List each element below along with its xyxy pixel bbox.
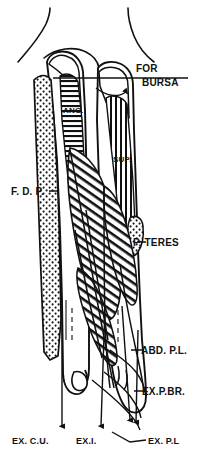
label-fdp: F. D. P. <box>11 186 44 197</box>
label-anconeus: ANC. <box>63 106 83 115</box>
anatomy-figure: FOR BURSA ANC. SUP. F. D. P. P. TERES AB… <box>0 0 205 452</box>
label-supinator: SUP. <box>113 155 131 164</box>
label-extensor-pollicis-brevis: EX.P.BR. <box>142 386 185 397</box>
label-for-bursa-line1: FOR <box>136 63 158 74</box>
label-extensor-pollicis-longus: EX. P.L <box>148 436 180 446</box>
label-abductor-pollicis-longus: ABD. P.L. <box>141 345 187 356</box>
label-extensor-carpi-ulnaris: EX. C.U. <box>12 436 49 446</box>
forearm-bones-illustration: FOR BURSA ANC. SUP. F. D. P. P. TERES AB… <box>0 0 205 452</box>
ulna-styloid-process <box>72 371 87 390</box>
label-for-bursa-line2: BURSA <box>142 77 179 88</box>
ulna-styloid-group <box>63 370 87 394</box>
soft-tissue-outline <box>18 8 154 68</box>
label-extensor-indicis: EX.I. <box>76 436 97 446</box>
ex-pl-connector <box>112 432 146 442</box>
label-pronator-teres: P. TERES <box>133 237 179 248</box>
